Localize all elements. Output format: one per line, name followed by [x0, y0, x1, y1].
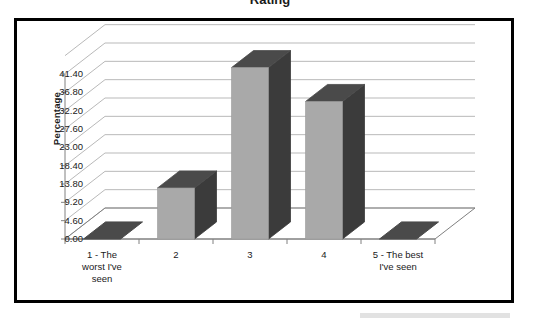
- x-tick-label-line: 5 - The best: [353, 249, 443, 261]
- clipped-chart-title: Rating: [0, 0, 540, 7]
- page-artifact-strip: [360, 313, 510, 318]
- chart-frame: Percentage 0.004.609.2013.8018.4023.0027…: [14, 18, 514, 303]
- x-tick-label-line: worst I've: [57, 261, 147, 273]
- x-tick-label-line: I've seen: [353, 261, 443, 273]
- chart-page: Rating Percentage 0.004.609.2013.8018.40…: [0, 0, 540, 325]
- x-axis-tick-labels: 1 - Theworst I'veseen2345 - The bestI've…: [17, 21, 511, 300]
- x-tick-label: 5 - The bestI've seen: [353, 249, 443, 273]
- x-tick-label-line: seen: [57, 273, 147, 285]
